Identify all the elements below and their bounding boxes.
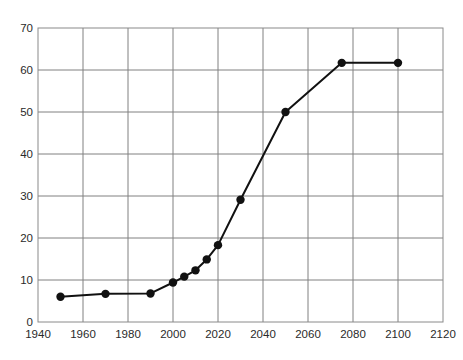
data-point-marker [281,108,289,116]
x-axis-tick-label: 1960 [70,328,96,340]
data-point-marker [394,59,402,67]
data-point-marker [180,272,188,280]
data-point-marker [203,255,211,263]
y-axis-tick-label: 50 [20,106,33,118]
x-axis-tick-label: 2060 [295,328,321,340]
figure-container: 010203040506070 194019601980200020202040… [0,0,463,360]
y-axis-tick-label: 0 [27,316,33,328]
x-axis-tick-label: 2020 [205,328,231,340]
data-point-marker [56,293,64,301]
y-axis-tick-label: 20 [20,232,33,244]
y-axis-tick-label: 60 [20,64,33,76]
data-point-marker [236,196,244,204]
data-point-marker [191,266,199,274]
data-point-marker [338,59,346,67]
x-axis-tick-label: 2120 [430,328,456,340]
x-axis-tick-label: 1940 [25,328,51,340]
x-axis-tick-label: 2100 [385,328,411,340]
y-axis-tick-label: 70 [20,22,33,34]
chart-background [0,0,463,360]
x-axis-tick-label: 2000 [160,328,186,340]
y-axis-tick-label: 10 [20,274,33,286]
x-axis-tick-label: 2080 [340,328,366,340]
data-point-marker [146,289,154,297]
y-axis-tick-label: 40 [20,148,33,160]
data-point-marker [101,290,109,298]
y-axis-tick-label: 30 [20,190,33,202]
line-chart: 010203040506070 194019601980200020202040… [0,0,463,360]
x-axis-tick-label: 2040 [250,328,276,340]
data-point-marker [169,278,177,286]
x-axis-tick-label: 1980 [115,328,141,340]
data-point-marker [214,241,222,249]
